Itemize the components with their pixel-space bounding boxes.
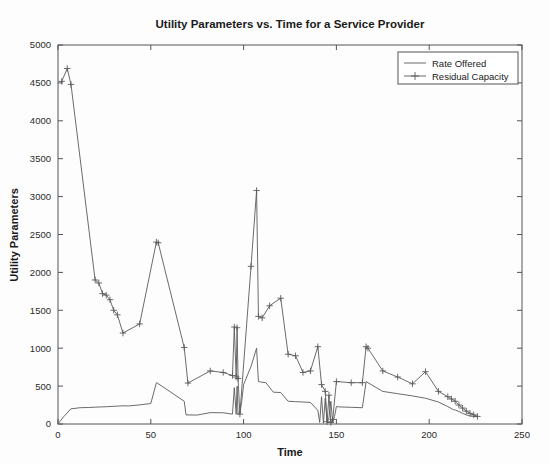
chart-page: Utility Parameters vs. Time for a Servic… <box>0 0 549 464</box>
y-tick-label: 5000 <box>30 39 51 50</box>
utility-parameters-chart: Utility Parameters vs. Time for a Servic… <box>0 0 549 464</box>
legend-label-1: Residual Capacity <box>432 71 509 82</box>
y-tick-label: 1500 <box>30 305 51 316</box>
series-polyline <box>58 348 477 424</box>
plot-frame <box>58 45 522 424</box>
y-tick-label: 2500 <box>30 229 51 240</box>
chart-legend[interactable]: Rate Offered Residual Capacity <box>398 52 518 84</box>
y-tick-label: 4000 <box>30 115 51 126</box>
x-tick-label: 250 <box>514 429 530 440</box>
x-axis-ticks: 050100150200250 <box>55 45 530 440</box>
x-tick-label: 100 <box>236 429 252 440</box>
y-tick-label: 4500 <box>30 77 51 88</box>
x-tick-label: 0 <box>55 429 60 440</box>
y-tick-label: 0 <box>46 418 51 429</box>
y-axis-ticks: 0500100015002000250030003500400045005000 <box>30 39 522 429</box>
series-rate-offered <box>58 348 477 424</box>
chart-title-group: Utility Parameters vs. Time for a Servic… <box>156 18 425 30</box>
series-residual-capacity <box>59 65 481 425</box>
y-tick-label: 1000 <box>30 343 51 354</box>
y-tick-label: 2000 <box>30 267 51 278</box>
x-tick-label: 200 <box>421 429 437 440</box>
x-tick-label: 150 <box>328 429 344 440</box>
series-polyline <box>62 69 478 423</box>
x-tick-label: 50 <box>146 429 157 440</box>
legend-label-0: Rate Offered <box>432 58 486 69</box>
chart-title: Utility Parameters vs. Time for a Servic… <box>156 18 425 30</box>
y-axis-label: Utility Parameters <box>8 188 20 282</box>
data-series-group <box>58 65 481 425</box>
y-tick-label: 3500 <box>30 153 51 164</box>
y-tick-label: 3000 <box>30 191 51 202</box>
x-axis-label: Time <box>277 446 302 458</box>
y-tick-label: 500 <box>35 381 51 392</box>
